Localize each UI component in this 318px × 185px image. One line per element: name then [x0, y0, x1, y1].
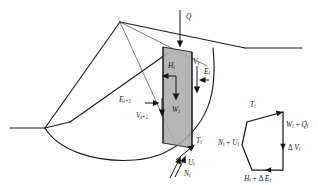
- right-interslice-group: Vi Ei: [193, 57, 211, 94]
- surcharge-arrow-head: [177, 41, 183, 48]
- left-horizontal-force-label: Ei+1: [118, 95, 131, 104]
- left-horizontal-force-arrow-head: [153, 100, 160, 106]
- right-vertical-force-label: Vi: [193, 57, 200, 66]
- force-polygon-outline: [242, 112, 283, 170]
- polygon-shear-label: Ti: [250, 100, 256, 109]
- polygon-horizontal-label: Hi + Δ Ei: [243, 174, 271, 183]
- surcharge-label: Q: [186, 12, 192, 21]
- left-interslice-group: Ei+1 Vi+1: [118, 95, 165, 120]
- force-polygon-group: Ti Wi + Qi Δ Vi Ni + Ui Hi + Δ Ei: [217, 100, 309, 183]
- polygon-weight-arrow-head: [280, 144, 285, 150]
- polygon-shear-arrow-head: [276, 110, 283, 116]
- base-shear-label: Ti: [196, 136, 202, 145]
- polygon-weight-label: Wi + Qi: [286, 120, 309, 129]
- figure-container: Q Hi Wi Vi Ei: [0, 0, 318, 185]
- polygon-normal-label: Ni + Ui: [217, 138, 240, 147]
- polygon-delta-vertical-label: Δ Vi: [288, 143, 301, 152]
- base-normal-label: Ni: [183, 169, 191, 178]
- left-vertical-force-label: Vi+1: [136, 111, 148, 120]
- base-porewater-label: Ui: [188, 158, 195, 167]
- right-vertical-force-arrow-head: [194, 87, 200, 94]
- ground-surface-crest: [120, 22, 245, 48]
- inner-wedge-chord: [70, 53, 168, 122]
- slope-geometry: [10, 22, 302, 160]
- surcharge-load-group: Q: [177, 10, 192, 48]
- slope-face: [45, 22, 120, 128]
- right-horizontal-force-label: Ei: [203, 67, 211, 76]
- base-porewater-arrow-head: [180, 156, 186, 164]
- slope-stability-diagram: Q Hi Wi Vi Ei: [0, 0, 318, 185]
- polygon-bottom-arrow-head: [265, 167, 271, 172]
- right-horizontal-force-arrow-head: [199, 77, 206, 83]
